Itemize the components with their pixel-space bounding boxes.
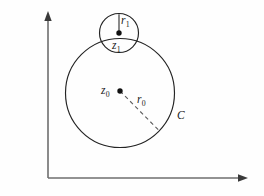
diagram-svg (0, 0, 264, 196)
horizontal-axis-arrowhead-icon (238, 174, 248, 181)
vertical-axis-arrowhead-icon (44, 11, 51, 21)
outer-center-label: z0 (101, 85, 109, 97)
inner-center-dot (116, 30, 121, 35)
outer-radius-label: r0 (137, 94, 145, 106)
figure-canvas: r1 z1 z0 r0 C (0, 0, 264, 196)
inner-radius-label: r1 (121, 15, 129, 27)
outer-center-dot (117, 88, 122, 93)
contour-label: C (177, 110, 185, 122)
inner-center-label: z1 (112, 40, 120, 52)
